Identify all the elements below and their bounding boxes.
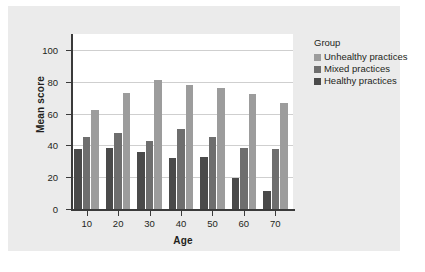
bar [249,94,257,209]
y-axis-tick [66,114,71,115]
x-axis-line [71,209,295,211]
bar [114,133,122,209]
x-axis-tick [212,211,213,216]
bar [263,191,271,209]
bar [74,149,82,209]
plot-area [73,34,293,209]
figure: Mean score Age Group Unhealthy practices… [0,0,425,272]
legend: Group Unhealthy practicesMixed practices… [314,37,409,87]
bar [217,88,225,209]
bar [106,148,114,209]
bar [123,93,131,209]
x-axis-tick-label: 60 [229,218,259,229]
y-axis-tick-label: 40 [8,140,58,151]
bar [154,80,162,209]
bar [200,157,208,210]
bar [146,141,154,209]
y-axis-line [71,34,73,210]
legend-item: Unhealthy practices [314,51,409,63]
bar [272,149,280,209]
legend-item: Healthy practices [314,75,409,87]
y-axis-tick-label: 0 [8,204,58,215]
x-axis-tick-label: 50 [197,218,227,229]
legend-label: Unhealthy practices [324,51,407,63]
bar [209,137,217,209]
y-axis-tick-label: 20 [8,172,58,183]
bar [83,137,91,209]
legend-swatch-icon [314,54,321,61]
legend-title: Group [314,37,409,49]
legend-label: Mixed practices [324,63,390,75]
bar [177,129,185,209]
y-axis-tick-label: 100 [8,45,58,56]
y-axis-tick [66,82,71,83]
x-axis-tick-label: 40 [166,218,196,229]
bar [280,103,288,209]
x-axis-tick [275,211,276,216]
legend-item: Mixed practices [314,63,409,75]
x-axis-tick-label: 20 [103,218,133,229]
bar [232,178,240,209]
plot-inner [73,34,293,209]
y-axis-tick-label: 60 [8,109,58,120]
x-axis-tick-label: 10 [72,218,102,229]
x-axis-tick [181,211,182,216]
y-axis-tick [66,145,71,146]
x-axis-tick [150,211,151,216]
x-axis-tick [244,211,245,216]
y-axis-tick [66,50,71,51]
bar [240,148,248,209]
gridline [73,82,293,83]
bar [91,110,99,209]
legend-swatch-icon [314,78,321,85]
x-axis-tick [87,211,88,216]
legend-label: Healthy practices [324,75,397,87]
y-axis-tick [66,209,71,210]
bar [186,85,194,209]
y-axis-tick [66,177,71,178]
x-axis-tick [118,211,119,216]
y-axis-tick-label: 80 [8,77,58,88]
gridline [73,114,293,115]
gridline [73,50,293,51]
bar [169,158,177,209]
legend-items: Unhealthy practicesMixed practicesHealth… [314,51,409,87]
x-axis-tick-label: 70 [260,218,290,229]
bar [137,152,145,209]
x-axis-label: Age [73,235,293,246]
legend-swatch-icon [314,66,321,73]
chart-panel: Mean score Age Group Unhealthy practices… [8,6,400,251]
x-axis-tick-label: 30 [135,218,165,229]
